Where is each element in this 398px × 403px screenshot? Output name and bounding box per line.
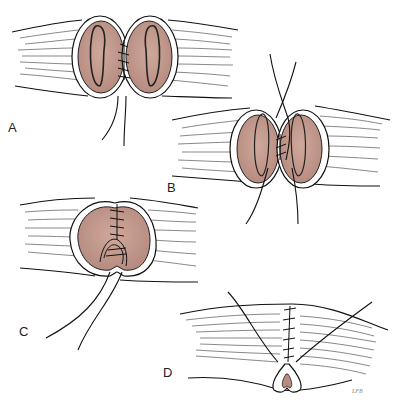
panel-label-d: D	[163, 365, 172, 380]
panel-d-stitches	[283, 306, 296, 362]
panel-d-fibers	[186, 314, 376, 374]
panel-label-c: C	[19, 324, 28, 339]
panel-b	[172, 54, 390, 224]
panel-c	[20, 198, 198, 350]
panel-a	[12, 16, 238, 146]
panel-d	[180, 292, 388, 392]
suture-illustration: B	[0, 0, 398, 403]
artist-signature: LFB	[352, 388, 363, 394]
panel-label-a: A	[8, 120, 17, 135]
svg-text:B: B	[167, 180, 176, 195]
